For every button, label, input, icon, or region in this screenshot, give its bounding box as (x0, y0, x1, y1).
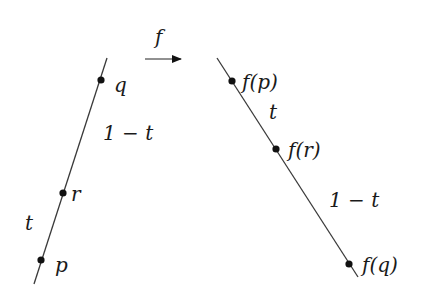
point-p (37, 256, 44, 263)
diagram-canvas: f q r p 1 − t t f(p) f(r) f(q) t 1 − t (0, 0, 426, 304)
point-f-q (345, 260, 352, 267)
right-segment-label-upper: t (269, 100, 278, 124)
right-segment-label-lower: 1 − t (329, 188, 380, 212)
left-segment-label-upper: 1 − t (103, 121, 154, 145)
point-q (97, 76, 104, 83)
point-f-r (272, 145, 279, 152)
label-f-q: f(q) (360, 253, 398, 277)
label-f-p: f(p) (240, 70, 278, 94)
left-line (34, 58, 107, 284)
label-f-r: f(r) (286, 138, 321, 162)
label-r: r (71, 182, 82, 206)
right-line (217, 58, 358, 277)
left-segment-label-lower: t (25, 211, 34, 235)
map-label: f (153, 25, 166, 49)
label-p: p (55, 253, 68, 277)
label-q: q (114, 73, 127, 97)
point-r (59, 189, 66, 196)
point-f-p (228, 77, 235, 84)
